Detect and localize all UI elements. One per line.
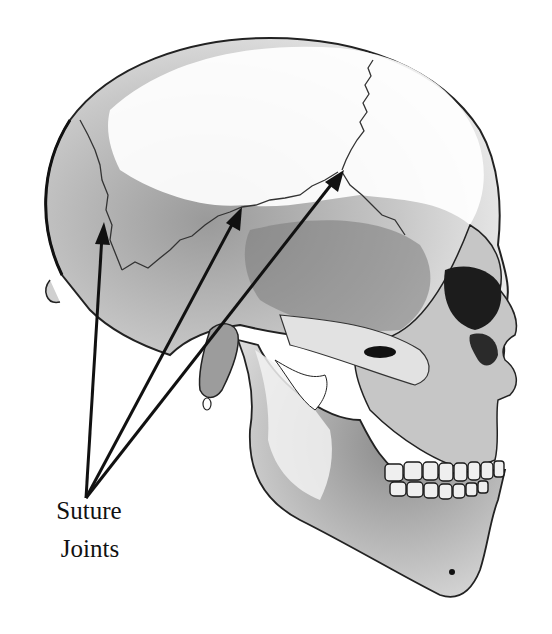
label-suture: Suture — [44, 496, 134, 526]
ear-region — [199, 324, 238, 410]
label-joints: Joints — [50, 534, 130, 564]
skull-diagram: Suture Joints — [0, 0, 552, 634]
